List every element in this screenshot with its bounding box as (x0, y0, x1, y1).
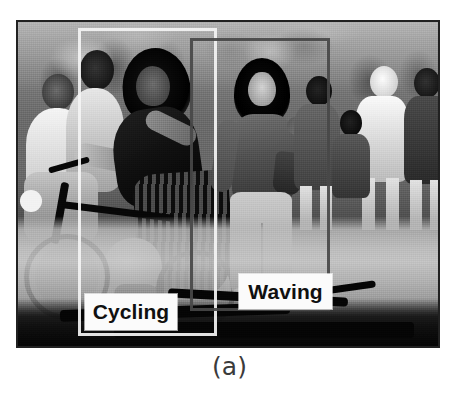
detection-label-cycling: Cycling (85, 294, 177, 330)
detection-label-waving: Waving (239, 274, 332, 309)
figure-panel: Cycling Waving (a) (0, 0, 459, 399)
figure-caption: (a) (0, 352, 459, 381)
detection-box-waving[interactable] (190, 38, 330, 311)
